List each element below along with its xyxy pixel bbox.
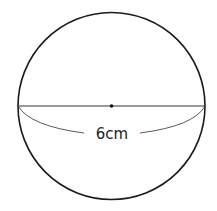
diameter-label: 6cm	[96, 125, 128, 143]
center-point	[110, 104, 114, 108]
diagram-canvas: 6cm	[0, 0, 217, 211]
brace-left	[18, 106, 84, 133]
brace-right	[140, 106, 205, 133]
circle-diagram: 6cm	[0, 0, 217, 211]
